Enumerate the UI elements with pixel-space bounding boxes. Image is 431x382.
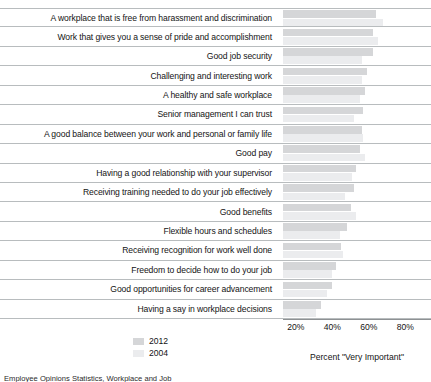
category-row: Good pay (0, 144, 431, 163)
category-label: Challenging and interesting work (0, 71, 276, 81)
bar-group (283, 86, 431, 104)
bar-2004 (283, 251, 343, 259)
category-row: Good opportunities for career advancemen… (0, 280, 431, 299)
chart-legend: 20122004 (133, 336, 253, 360)
bar-group (283, 164, 431, 182)
bar-2012 (283, 282, 332, 290)
bar-2004 (283, 212, 356, 220)
legend-label: 2012 (149, 336, 168, 347)
bar-group (283, 125, 431, 143)
category-label: Good job security (0, 51, 276, 61)
bar-2012 (283, 145, 360, 153)
bar-2012 (283, 29, 373, 37)
category-row: Flexible hours and schedules (0, 222, 431, 241)
legend-entry: 2004 (133, 348, 253, 359)
bar-2004 (283, 56, 362, 64)
bar-2012 (283, 10, 376, 18)
x-tick-label: 60% (349, 322, 389, 332)
category-row: Good benefits (0, 202, 431, 221)
bar-group (283, 144, 431, 162)
bar-group (283, 280, 431, 298)
bar-2004 (283, 154, 365, 162)
bar-2004 (283, 231, 340, 239)
horizontal-bar-chart: A workplace that is free from harassment… (0, 0, 431, 382)
category-row: Having a say in workplace decisions (0, 300, 431, 319)
x-tick-label: 20% (276, 322, 316, 332)
category-label: Receiving recognition for work well done (0, 245, 276, 255)
legend-label: 2004 (149, 348, 168, 359)
category-label: Flexible hours and schedules (0, 226, 276, 236)
category-row: A good balance between your work and per… (0, 125, 431, 144)
bar-2012 (283, 48, 373, 56)
bar-2012 (283, 184, 354, 192)
category-row: Having a good relationship with your sup… (0, 164, 431, 183)
category-row: Senior management I can trust (0, 105, 431, 124)
bar-2004 (283, 115, 354, 123)
bar-2012 (283, 87, 365, 95)
category-label: Having a good relationship with your sup… (0, 168, 276, 178)
bar-2004 (283, 309, 316, 317)
legend-entry: 2012 (133, 336, 253, 347)
category-label: Good opportunities for career advancemen… (0, 284, 276, 294)
category-row: Challenging and interesting work (0, 66, 431, 85)
bar-2012 (283, 165, 356, 173)
source-caption: Employee Opinions Statistics, Workplace … (4, 374, 304, 382)
category-label: A good balance between your work and per… (0, 129, 276, 139)
legend-swatch-icon (133, 350, 144, 357)
category-label: Good benefits (0, 207, 276, 217)
x-axis-line (283, 319, 431, 320)
x-axis-title: Percent "Very Important" (283, 352, 431, 362)
category-label: A workplace that is free from harassment… (0, 13, 276, 23)
bar-group (283, 27, 431, 45)
bar-group (283, 9, 431, 26)
bar-2004 (283, 76, 362, 84)
category-label: Receiving training needed to do your job… (0, 187, 276, 197)
bar-group (283, 222, 431, 240)
bar-group (283, 241, 431, 259)
category-row: A workplace that is free from harassment… (0, 8, 431, 27)
bar-2004 (283, 270, 332, 278)
bar-2012 (283, 262, 336, 270)
bar-group (283, 105, 431, 123)
legend-swatch-icon (133, 338, 144, 345)
category-label: Work that gives you a sense of pride and… (0, 32, 276, 42)
category-row: A healthy and safe workplace (0, 86, 431, 105)
category-label: Having a say in workplace decisions (0, 304, 276, 314)
bar-2012 (283, 204, 351, 212)
bar-2012 (283, 68, 367, 76)
bar-group (283, 47, 431, 65)
category-row: Work that gives you a sense of pride and… (0, 27, 431, 46)
bar-2004 (283, 134, 363, 142)
category-label: A healthy and safe workplace (0, 90, 276, 100)
bar-group (283, 183, 431, 201)
bar-2012 (283, 223, 347, 231)
bar-2004 (283, 19, 383, 27)
bar-2004 (283, 95, 360, 103)
category-label: Senior management I can trust (0, 109, 276, 119)
category-row: Good job security (0, 47, 431, 66)
bar-2012 (283, 243, 341, 251)
bar-2012 (283, 126, 362, 134)
x-tick-label: 40% (312, 322, 352, 332)
bar-group (283, 66, 431, 84)
category-row: Freedom to decide how to do your job (0, 261, 431, 280)
bar-2004 (283, 290, 327, 298)
category-label: Freedom to decide how to do your job (0, 265, 276, 275)
plot-area: A workplace that is free from harassment… (0, 8, 431, 319)
bar-2004 (283, 173, 352, 181)
bar-group (283, 300, 431, 318)
bar-group (283, 202, 431, 220)
bar-group (283, 261, 431, 279)
bar-2012 (283, 301, 321, 309)
category-label: Good pay (0, 148, 276, 158)
bar-2004 (283, 37, 378, 45)
x-axis-tick-labels: 20%40%60%80% (255, 322, 431, 336)
category-row: Receiving training needed to do your job… (0, 183, 431, 202)
category-row: Receiving recognition for work well done (0, 241, 431, 260)
x-tick-label: 80% (385, 322, 425, 332)
bar-2012 (283, 107, 363, 115)
bar-2004 (283, 193, 345, 201)
